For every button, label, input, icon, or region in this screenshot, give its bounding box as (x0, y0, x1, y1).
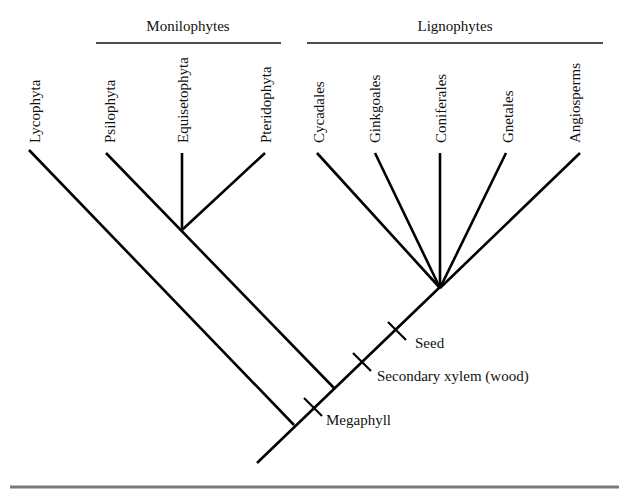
taxon-label-gnetales: Gnetales (500, 90, 516, 143)
branch-gnetales (440, 153, 506, 288)
clade-lignophytes: Lignophytes (307, 18, 603, 43)
taxon-label-lycophyta: Lycophyta (27, 79, 43, 143)
taxon-label-coniferales: Coniferales (433, 74, 449, 143)
taxon-label-pteridophyta: Pteridophyta (258, 66, 274, 143)
cladogram-figure: Monilophytes Lignophytes Lycophyta Psilo… (0, 0, 619, 491)
branch-cycadales (317, 153, 440, 288)
trait-label-megaphyll: Megaphyll (326, 412, 391, 428)
trait-label-seed: Seed (415, 335, 445, 351)
branch-psilophyta (106, 153, 334, 388)
tree-branches (29, 150, 580, 463)
taxon-label-cycadales: Cycadales (311, 81, 327, 143)
trait-tick-seed (388, 322, 406, 340)
branch-pteridophyta (182, 153, 265, 230)
clade-label-monilophytes: Monilophytes (146, 18, 229, 34)
clade-label-lignophytes: Lignophytes (418, 18, 493, 34)
taxon-label-angiosperms: Angiosperms (567, 63, 583, 143)
taxon-label-ginkgoales: Ginkgoales (367, 75, 383, 143)
trait-tick-megaphyll (304, 398, 322, 416)
taxon-label-psilophyta: Psilophyta (102, 79, 118, 143)
cladogram-canvas: Monilophytes Lignophytes Lycophyta Psilo… (0, 0, 619, 491)
branch-lycophyta (29, 150, 294, 425)
clade-monilophytes: Monilophytes (96, 18, 281, 43)
branch-angiosperms (440, 153, 580, 288)
taxon-labels: Lycophyta Psilophyta Equisetophyta Pteri… (27, 57, 583, 143)
trait-label-secondary-xylem: Secondary xylem (wood) (377, 368, 529, 385)
trait-labels: Megaphyll Secondary xylem (wood) Seed (326, 335, 529, 428)
branch-ginkgoales (375, 153, 440, 288)
taxon-label-equisetophyta: Equisetophyta (175, 57, 191, 143)
